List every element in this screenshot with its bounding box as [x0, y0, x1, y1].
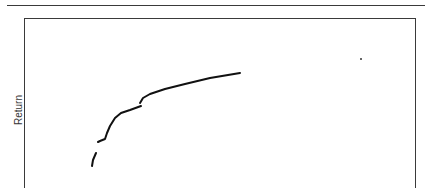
- stray-point: [360, 58, 362, 60]
- curve-segment: [98, 106, 141, 142]
- curve-segment: [140, 73, 240, 103]
- curve-segment: [92, 153, 96, 166]
- chart-curve: [0, 0, 432, 188]
